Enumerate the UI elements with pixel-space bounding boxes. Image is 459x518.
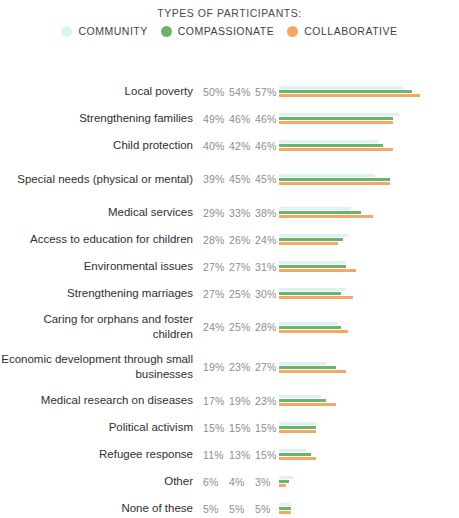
bar-gap [279, 483, 459, 484]
bar-collaborative [279, 215, 373, 218]
category-label: Child protection [0, 138, 193, 153]
chart-row: Environmental issues27%27%31% [0, 253, 459, 280]
value-compassionate: 25% [229, 321, 255, 333]
chart-row: Other6%4%3% [0, 468, 459, 495]
category-label: Strengthening families [0, 111, 193, 126]
value-columns: 39%45%45% [193, 173, 277, 185]
value-compassionate: 26% [229, 234, 255, 246]
bar-group [277, 207, 459, 218]
legend-dot-icon [161, 26, 172, 37]
chart-row: Strengthening families49%46%46% [0, 105, 459, 132]
legend-label: COMMUNITY [78, 25, 147, 37]
bar-group [277, 362, 459, 373]
value-compassionate: 54% [229, 86, 255, 98]
bar-group [277, 174, 459, 185]
category-label: Special needs (physical or mental) [0, 172, 193, 187]
bar-gap [279, 506, 459, 507]
value-community: 5% [203, 503, 229, 515]
bar-collaborative [279, 182, 390, 185]
value-columns: 11%13%15% [193, 449, 277, 461]
bar-collaborative [279, 121, 393, 124]
bar-collaborative [279, 430, 316, 433]
value-compassionate: 19% [229, 395, 255, 407]
chart-row: Medical research on diseases17%19%23% [0, 387, 459, 414]
value-columns: 27%27%31% [193, 261, 277, 273]
chart-row: Refugee response11%13%15% [0, 441, 459, 468]
value-compassionate: 25% [229, 288, 255, 300]
bar-group [277, 261, 459, 272]
legend-dot-icon [61, 26, 72, 37]
value-compassionate: 27% [229, 261, 255, 273]
value-columns: 24%25%28% [193, 321, 277, 333]
chart-row: Economic development through small busin… [0, 347, 459, 387]
bar-collaborative [279, 330, 348, 333]
category-label: Medical services [0, 205, 193, 220]
value-columns: 50%54%57% [193, 86, 277, 98]
value-compassionate: 13% [229, 449, 255, 461]
chart-row: Medical services29%33%38% [0, 199, 459, 226]
value-community: 49% [203, 113, 229, 125]
bar-group [277, 476, 459, 487]
category-label: Caring for orphans and foster children [0, 312, 193, 342]
legend-entry-compassionate[interactable]: COMPASSIONATE [161, 25, 275, 37]
bar-collaborative [279, 296, 353, 299]
chart-rows: Local poverty50%54%57%Strengthening fami… [0, 78, 459, 518]
value-community: 17% [203, 395, 229, 407]
bar-collaborative [279, 148, 393, 151]
bar-gap [279, 479, 459, 480]
category-label: Medical research on diseases [0, 393, 193, 408]
category-label: Environmental issues [0, 259, 193, 274]
value-compassionate: 15% [229, 422, 255, 434]
legend-items: COMMUNITYCOMPASSIONATECOLLABORATIVE [0, 25, 459, 37]
value-community: 6% [203, 476, 229, 488]
chart-row: None of these5%5%5% [0, 495, 459, 518]
category-label: Access to education for children [0, 232, 193, 247]
bar-collaborative [279, 511, 291, 514]
value-columns: 6%4%3% [193, 476, 277, 488]
value-community: 24% [203, 321, 229, 333]
chart-row: Caring for orphans and foster children24… [0, 307, 459, 347]
bar-collaborative [279, 269, 356, 272]
category-label: Strengthening marriages [0, 286, 193, 301]
value-community: 27% [203, 261, 229, 273]
bar-group [277, 449, 459, 460]
value-columns: 40%42%46% [193, 140, 277, 152]
bar-collaborative [279, 457, 316, 460]
value-compassionate: 23% [229, 361, 255, 373]
bar-collaborative [279, 484, 286, 487]
value-community: 28% [203, 234, 229, 246]
chart-row: Special needs (physical or mental)39%45%… [0, 159, 459, 199]
value-community: 29% [203, 207, 229, 219]
bar-group [277, 288, 459, 299]
value-community: 19% [203, 361, 229, 373]
bar-group [277, 140, 459, 151]
value-compassionate: 46% [229, 113, 255, 125]
chart-legend-block: TYPES OF PARTICIPANTS: COMMUNITYCOMPASSI… [0, 0, 459, 37]
category-label: Local poverty [0, 84, 193, 99]
bar-collaborative [279, 370, 346, 373]
value-columns: 19%23%27% [193, 361, 277, 373]
value-community: 27% [203, 288, 229, 300]
chart-row: Political activism15%15%15% [0, 414, 459, 441]
bar-group [277, 234, 459, 245]
value-columns: 29%33%38% [193, 207, 277, 219]
value-columns: 28%26%24% [193, 234, 277, 246]
bar-group [277, 395, 459, 406]
legend-entry-collaborative[interactable]: COLLABORATIVE [287, 25, 397, 37]
legend-label: COMPASSIONATE [178, 25, 275, 37]
value-columns: 5%5%5% [193, 503, 277, 515]
bar-group [277, 322, 459, 333]
chart-row: Access to education for children28%26%24… [0, 226, 459, 253]
bar-group [277, 422, 459, 433]
category-label: Economic development through small busin… [0, 352, 193, 382]
value-compassionate: 33% [229, 207, 255, 219]
value-compassionate: 4% [229, 476, 255, 488]
value-compassionate: 45% [229, 173, 255, 185]
value-columns: 27%25%30% [193, 288, 277, 300]
bar-collaborative [279, 94, 420, 97]
category-label: Refugee response [0, 447, 193, 462]
legend-entry-community[interactable]: COMMUNITY [61, 25, 147, 37]
value-community: 15% [203, 422, 229, 434]
bar-collaborative [279, 403, 336, 406]
chart-row: Strengthening marriages27%25%30% [0, 280, 459, 307]
